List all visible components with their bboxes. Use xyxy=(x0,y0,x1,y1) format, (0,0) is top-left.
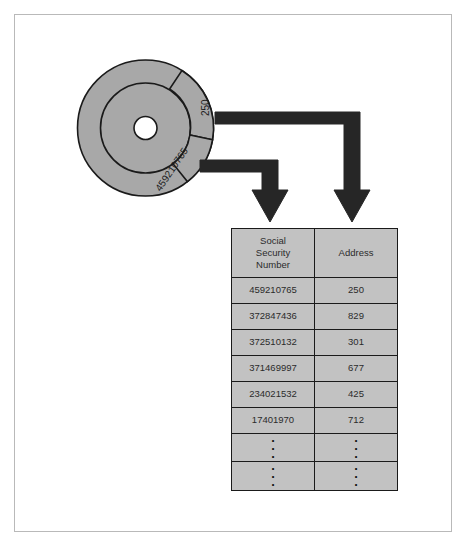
table-row-ellipsis: ... ... xyxy=(232,434,398,462)
vertical-dots-icon: ... xyxy=(354,462,358,486)
cell-address: 301 xyxy=(315,330,398,356)
column-header-ssn-line1: Social xyxy=(232,235,314,247)
record-table: Social Security Number Address 459210765… xyxy=(231,228,398,491)
storage-disk xyxy=(78,60,214,196)
disk-center-hole xyxy=(134,117,157,140)
table-row: 234021532 425 xyxy=(232,382,398,408)
cell-ssn: 372847436 xyxy=(232,304,315,330)
cell-address: 677 xyxy=(315,356,398,382)
column-header-ssn-line2: Security xyxy=(232,247,314,259)
vertical-dots-icon: ... xyxy=(354,434,358,458)
cell-address: 250 xyxy=(315,278,398,304)
table-row: 372510132 301 xyxy=(232,330,398,356)
table-row: 459210765 250 xyxy=(232,278,398,304)
figure-root: 250 459210765 Social Security Number Add… xyxy=(0,0,467,546)
column-header-ssn-line3: Number xyxy=(232,259,314,271)
table-row: 17401970 712 xyxy=(232,408,398,434)
cell-address: 425 xyxy=(315,382,398,408)
arrow-ssn xyxy=(200,160,288,222)
vertical-dots-icon: ... xyxy=(271,462,275,486)
vertical-dots-icon: ... xyxy=(271,434,275,458)
disk-slice-label-address: 250 xyxy=(200,99,211,116)
cell-ssn: 371469997 xyxy=(232,356,315,382)
cell-ssn-ellipsis: ... xyxy=(232,462,315,490)
cell-ssn: 459210765 xyxy=(232,278,315,304)
column-header-ssn: Social Security Number xyxy=(232,229,315,278)
table-row: 372847436 829 xyxy=(232,304,398,330)
column-header-address: Address xyxy=(315,229,398,278)
table-header-row: Social Security Number Address xyxy=(232,229,398,278)
cell-address: 829 xyxy=(315,304,398,330)
cell-ssn: 234021532 xyxy=(232,382,315,408)
table-row-ellipsis: ... ... xyxy=(232,462,398,490)
cell-address-ellipsis: ... xyxy=(315,462,398,490)
cell-ssn: 372510132 xyxy=(232,330,315,356)
table-row: 371469997 677 xyxy=(232,356,398,382)
